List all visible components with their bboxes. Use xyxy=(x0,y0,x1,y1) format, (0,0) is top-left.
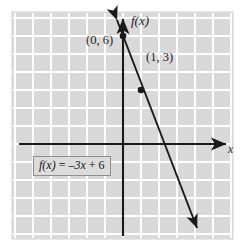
axis-label-fx: f(x) xyxy=(131,13,149,29)
equation-slope-term: –3x xyxy=(68,158,85,172)
equation-equals: = xyxy=(56,158,69,172)
graph-figure: f(x) (0, 6) (1, 3) x f(x) = –3x + 6 xyxy=(0,0,246,252)
equation-function-name: f(x) xyxy=(39,158,56,172)
axis-label-x: x xyxy=(228,143,233,155)
equation-plus: + xyxy=(86,158,99,172)
point-label-one-three: (1, 3) xyxy=(146,50,173,65)
point-one-three xyxy=(138,87,145,94)
point-y-intercept xyxy=(120,33,127,40)
function-line xyxy=(0,0,246,252)
equation-annotation: f(x) = –3x + 6 xyxy=(33,156,111,176)
point-label-y-intercept: (0, 6) xyxy=(86,33,113,48)
equation-intercept: 6 xyxy=(99,158,105,172)
